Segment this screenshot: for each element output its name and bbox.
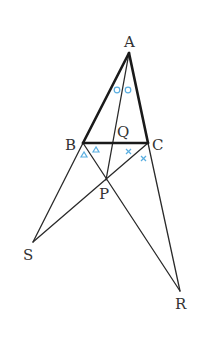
angle-mark-circle-icon bbox=[125, 87, 131, 93]
angle-mark-cross-icon bbox=[141, 156, 146, 161]
segment-c-r bbox=[148, 143, 180, 291]
label-b: B bbox=[65, 136, 76, 154]
angle-mark-triangle-icon bbox=[93, 147, 99, 152]
angle-mark-circle-icon bbox=[114, 87, 120, 93]
segment-b-r bbox=[83, 143, 180, 291]
segment-a-p bbox=[106, 53, 129, 180]
angle-mark-triangle-icon bbox=[81, 152, 87, 157]
segment-c-s bbox=[33, 143, 148, 242]
angle-mark-cross-icon bbox=[126, 149, 131, 154]
label-q: Q bbox=[117, 123, 129, 141]
label-c: C bbox=[152, 136, 163, 154]
segment-a-c bbox=[129, 53, 148, 143]
label-p: P bbox=[99, 185, 109, 203]
segment-b-s bbox=[33, 143, 83, 242]
geometry-diagram: A B C Q P S R bbox=[0, 0, 208, 337]
label-s: S bbox=[23, 246, 33, 264]
label-a: A bbox=[123, 33, 135, 51]
label-r: R bbox=[175, 295, 187, 313]
